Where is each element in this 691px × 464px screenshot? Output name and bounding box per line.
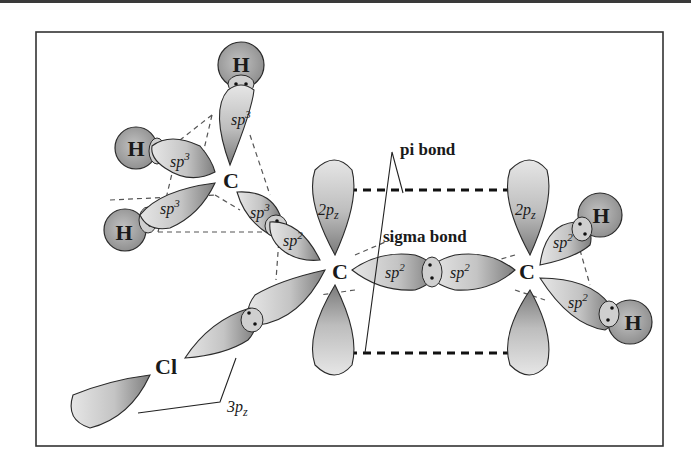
overlap-c-cl: [241, 308, 263, 332]
atom-label-h-left-lower: H: [115, 220, 132, 245]
cl-3p-lobe-back: [71, 375, 150, 428]
atom-label-h-left-upper: H: [127, 136, 144, 161]
atom-label-h-right-upper: H: [592, 203, 609, 228]
sp2-lobe-right-sigma: [430, 254, 515, 290]
orbital-label-sp3-top: sp3: [231, 108, 251, 129]
cl-3pz-label: 3pz: [226, 398, 248, 419]
atom-label-h-top: H: [232, 52, 249, 77]
overlap-sigma: [422, 257, 442, 287]
atom-label-c-center: C: [332, 259, 348, 284]
overlap-right-lower: [599, 301, 619, 327]
orbital-diagram: H H H C C C H H Cl sp3 sp3 sp3 sp3 sp2 2…: [0, 0, 691, 464]
atom-label-c-right: C: [519, 259, 535, 284]
sigma-bond-label: sigma bond: [383, 227, 467, 246]
overlap-right-upper: [572, 217, 592, 241]
atom-label-h-right-lower: H: [624, 310, 641, 335]
p-lobe-center-down: [313, 285, 354, 375]
atom-label-cl: Cl: [155, 354, 177, 379]
pi-bond-label: pi bond: [400, 140, 456, 159]
p-lobe-right-down: [508, 290, 549, 375]
atom-label-c-methyl: C: [223, 168, 239, 193]
